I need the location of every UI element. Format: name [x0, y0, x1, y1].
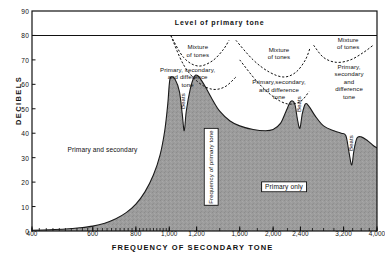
- mixture-of-tones-right: Mixture of tones: [337, 35, 359, 50]
- beats-2: Beats: [296, 96, 303, 112]
- primary-only: Primary only: [261, 181, 307, 192]
- primary-secondary-and-difference-tone-left: Primary, secondary, and difference tone: [160, 66, 215, 88]
- beats-1: Beats: [181, 94, 188, 110]
- plot-area: [0, 0, 385, 260]
- primary-secondary-and-difference-tone-right: Primary, secondary and difference tone: [335, 63, 364, 100]
- primary-and-secondary: Primary and secondary: [67, 147, 137, 154]
- frequency-of-primary-tone: Frequency of primary tone: [203, 129, 218, 207]
- beats-3: Beats: [348, 135, 355, 151]
- level-of-primary-tone: Level of primary tone: [175, 20, 265, 27]
- mixture-of-tones-mid: Mixture of tones: [268, 45, 290, 60]
- chart-figure: DECIBELS FREQUENCY OF SECONDARY TONE 010…: [0, 0, 385, 260]
- mixture-of-tones-left: Mixture of tones: [187, 43, 209, 58]
